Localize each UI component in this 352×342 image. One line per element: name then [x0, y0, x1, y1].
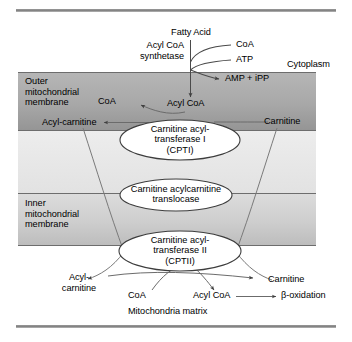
carnitine-cytoplasm-label: Carnitine [264, 116, 300, 127]
coa-released-label: CoA [98, 96, 116, 107]
amp-ipp-label: AMP + iPP [225, 73, 269, 84]
carnitine-shuttle-diagram: Fatty Acid Acyl CoA synthetase CoA ATP A… [0, 0, 352, 342]
coa-input-label: CoA [236, 39, 254, 50]
cpt1-label: Carnitine acyl- transferase I (CPTI) [120, 124, 240, 155]
acyl-coa-label: Acyl CoA [167, 98, 204, 109]
atp-input-label: ATP [236, 54, 253, 65]
outer-membrane-label: Outer mitochondrial membrane [25, 76, 79, 108]
acyl-carnitine-cytoplasm-label: Acyl-carnitine [42, 117, 96, 128]
translocase-label: Carnitine acylcarnitine translocase [120, 184, 232, 205]
beta-oxidation-label: β-oxidation [281, 290, 326, 301]
acyl-coa-synthetase-label: Acyl CoA synthetase [96, 40, 184, 61]
top-rule [16, 9, 336, 12]
inner-membrane-label: Inner mitochondrial membrane [25, 198, 79, 230]
cytoplasm-label: Cytoplasm [287, 59, 330, 70]
mitochondria-matrix-label: Mitochondria matrix [128, 306, 207, 317]
acyl-carnitine-matrix-label: Acyl- carnitine [50, 272, 108, 293]
matrix-acyl-carnitine-to-cpt2-curve [108, 272, 253, 278]
cpt2-label: Carnitine acyl- transferase II (CPTII) [119, 235, 241, 266]
fatty-acid-label: Fatty Acid [151, 27, 231, 38]
coa-matrix-label: CoA [128, 290, 146, 301]
carnitine-lower-curve [236, 252, 272, 280]
atp-input-curve [191, 60, 232, 70]
coa-input-curve [191, 45, 232, 62]
carnitine-matrix-label: Carnitine [268, 274, 304, 285]
acyl-coa-matrix-label: Acyl CoA [193, 290, 230, 301]
bottom-rule [16, 325, 336, 328]
